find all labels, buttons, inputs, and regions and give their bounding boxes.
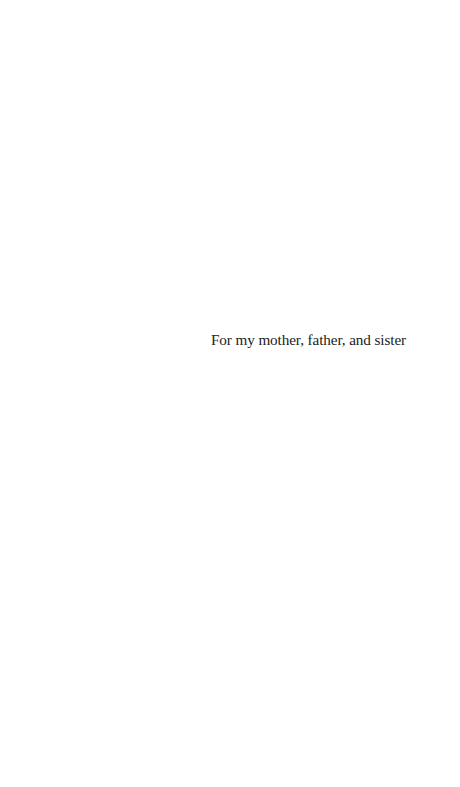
dedication-page: For my mother, father, and sister	[0, 0, 460, 787]
dedication-text: For my mother, father, and sister	[211, 331, 406, 349]
